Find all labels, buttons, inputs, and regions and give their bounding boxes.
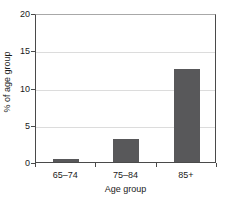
x-axis-tick-mark (35, 163, 36, 167)
bar-slot (96, 15, 156, 162)
x-axis-tick-mark (95, 163, 96, 167)
plot-area (35, 14, 216, 163)
bar-slot (157, 15, 217, 162)
x-axis-category-label: 85+ (178, 170, 193, 180)
bar-chart: % of age group 05101520 65–7475–8485+ Ag… (0, 0, 227, 201)
y-axis-tick-label: 10 (10, 84, 30, 93)
y-axis-tick-labels: 05101520 (10, 0, 30, 201)
bar[interactable] (53, 159, 79, 162)
y-axis-tick-label: 15 (10, 47, 30, 56)
bar[interactable] (174, 69, 200, 162)
x-axis-category-label: 75–84 (113, 170, 138, 180)
bar-slot (36, 15, 96, 162)
y-axis-tick-label: 0 (10, 159, 30, 168)
x-axis-category-label: 65–74 (53, 170, 78, 180)
bars-layer (36, 15, 215, 162)
x-axis-tick-mark (156, 163, 157, 167)
x-axis-title: Age group (35, 184, 216, 194)
y-axis-tick-label: 5 (10, 121, 30, 130)
bar[interactable] (113, 139, 139, 162)
y-axis-tick-label: 20 (10, 10, 30, 19)
x-axis-tick-mark (216, 163, 217, 167)
